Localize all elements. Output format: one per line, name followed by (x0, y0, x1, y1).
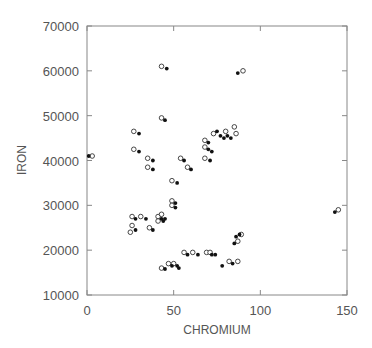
y-tick-label: 30000 (43, 198, 79, 213)
open-circle-point (170, 178, 175, 183)
open-circle-point (211, 131, 216, 136)
filled-circle-point (174, 201, 178, 205)
filled-circle-point (232, 242, 236, 246)
open-circle-point (336, 208, 341, 213)
x-tick-label: 100 (249, 303, 271, 318)
open-circle-point (147, 225, 152, 230)
open-circle-point (227, 259, 232, 264)
filled-circle-point (210, 150, 214, 154)
filled-circle-point (231, 262, 235, 266)
open-circle-point (130, 214, 135, 219)
filled-circle-point (215, 129, 219, 133)
open-circle-point (145, 165, 150, 170)
filled-circle-point (151, 159, 155, 163)
open-circle-point (132, 129, 137, 134)
open-circle-point (128, 230, 133, 235)
filled-circle-point (163, 267, 167, 271)
filled-circle-point (144, 217, 148, 221)
filled-circle-point (208, 159, 212, 163)
filled-circle-point (137, 132, 141, 136)
open-circle-point (203, 156, 208, 161)
filled-circle-point (177, 266, 181, 270)
filled-circle-point (163, 217, 167, 221)
y-tick-label: 20000 (43, 243, 79, 258)
open-circle-point (130, 223, 135, 228)
y-axis-label: IRON (15, 145, 29, 175)
open-circle-point (190, 250, 195, 255)
x-tick-label: 0 (83, 303, 90, 318)
filled-circle-point (134, 228, 138, 232)
filled-circle-point (151, 168, 155, 172)
tick-labels: 0501001501000020000300004000050000600007… (43, 19, 358, 318)
x-tick-label: 150 (336, 303, 358, 318)
open-circle-point (236, 239, 241, 244)
filled-circle-point (151, 228, 155, 232)
open-circle-point (203, 145, 208, 150)
open-circle-point (185, 165, 190, 170)
filled-circle-point (226, 134, 230, 138)
open-circle-point (236, 259, 241, 264)
y-tick-label: 10000 (43, 288, 79, 303)
filled-circle-point (234, 235, 238, 239)
x-tick-label: 50 (166, 303, 180, 318)
open-circle-point (223, 129, 228, 134)
open-circle-point (156, 219, 161, 224)
filled-circle-point (170, 264, 174, 268)
open-circle-point (159, 64, 164, 69)
filled-circle-point (163, 118, 167, 122)
open-circle-point (159, 266, 164, 271)
filled-circle-point (137, 150, 141, 154)
data-points (87, 64, 341, 271)
y-tick-label: 40000 (43, 154, 79, 169)
filled-circle-point (206, 147, 210, 151)
open-circle-point (182, 250, 187, 255)
filled-circle-point (196, 253, 200, 257)
filled-circle-point (238, 233, 242, 237)
open-circle-point (178, 156, 183, 161)
filled-circle-point (189, 168, 193, 172)
open-circle-point (241, 69, 246, 74)
filled-circle-point (213, 253, 217, 257)
y-tick-label: 70000 (43, 19, 79, 34)
filled-circle-point (220, 264, 224, 268)
open-circle-point (234, 131, 239, 136)
open-circle-point (170, 199, 175, 204)
filled-circle-point (206, 141, 210, 145)
open-circle-point (166, 261, 171, 266)
open-circle-point (159, 212, 164, 217)
x-axis-label: CHROMIUM (183, 323, 250, 337)
filled-circle-point (174, 206, 178, 210)
filled-circle-point (229, 136, 233, 140)
filled-circle-point (219, 134, 223, 138)
filled-circle-point (210, 253, 214, 257)
filled-circle-point (222, 136, 226, 140)
open-circle-point (159, 116, 164, 121)
filled-circle-point (186, 253, 190, 257)
open-circle-point (170, 203, 175, 208)
open-circle-point (132, 147, 137, 152)
filled-circle-point (175, 181, 179, 185)
filled-circle-point (87, 154, 91, 158)
open-circle-point (145, 156, 150, 161)
filled-circle-point (165, 67, 169, 71)
open-circle-point (232, 125, 237, 130)
open-circle-point (138, 214, 143, 219)
filled-circle-point (134, 217, 138, 221)
open-circle-point (203, 138, 208, 143)
filled-circle-point (333, 210, 337, 214)
scatter-chart: 0501001501000020000300004000050000600007… (0, 0, 372, 348)
filled-circle-point (182, 159, 186, 163)
y-tick-label: 50000 (43, 109, 79, 124)
filled-circle-point (236, 71, 240, 75)
y-tick-label: 60000 (43, 64, 79, 79)
